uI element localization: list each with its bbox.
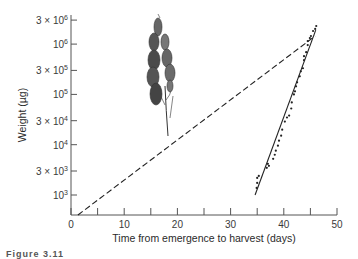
y-tick-label: 105 [53, 88, 68, 100]
y-tick-label: 3 × 106 [36, 14, 68, 26]
data-point [303, 55, 305, 57]
figure-caption: Figure 3.11 [6, 249, 64, 259]
data-point [256, 177, 258, 179]
data-point [275, 150, 277, 152]
data-point [314, 28, 316, 30]
data-point [284, 120, 286, 122]
data-point [291, 101, 293, 103]
data-point [256, 182, 258, 184]
x-tick-label: 50 [331, 219, 343, 230]
x-tick-label: 30 [225, 219, 237, 230]
x-tick-label: 20 [172, 219, 184, 230]
x-tick-label: 10 [119, 219, 131, 230]
data-point [290, 107, 292, 109]
y-tick-label: 106 [53, 38, 68, 50]
data-point [288, 114, 290, 116]
x-tick-label: 40 [278, 219, 290, 230]
data-point [312, 30, 314, 32]
x-axis-title: Time from emergence to harvest (days) [112, 232, 295, 244]
data-point [281, 129, 283, 131]
data-point [310, 35, 312, 37]
dashed-growth-line [78, 36, 315, 215]
data-point [280, 135, 282, 137]
data-point [272, 158, 274, 160]
data-point [268, 165, 270, 167]
solid-fit-line [255, 30, 316, 195]
data-point [307, 44, 309, 46]
data-point [293, 93, 295, 95]
y-tick-label: 104 [53, 139, 68, 151]
data-point [274, 154, 276, 156]
data-point [258, 175, 260, 177]
data-point [315, 25, 317, 27]
data-point [266, 167, 268, 169]
plot-series [78, 25, 317, 215]
y-tick-label: 3 × 105 [36, 64, 68, 76]
y-tick-label: 103 [53, 189, 68, 201]
data-point [278, 140, 280, 142]
plant-illustration [147, 14, 175, 136]
data-point [286, 116, 288, 118]
x-tick-label: 0 [68, 219, 74, 230]
data-point [277, 145, 279, 147]
y-tick-label: 3 × 104 [36, 115, 68, 127]
y-tick-label: 3 × 103 [36, 165, 68, 177]
y-axis-title: Weight (µg) [16, 88, 28, 142]
data-point [294, 90, 296, 92]
x-ticks: 01020304050 [68, 208, 343, 230]
